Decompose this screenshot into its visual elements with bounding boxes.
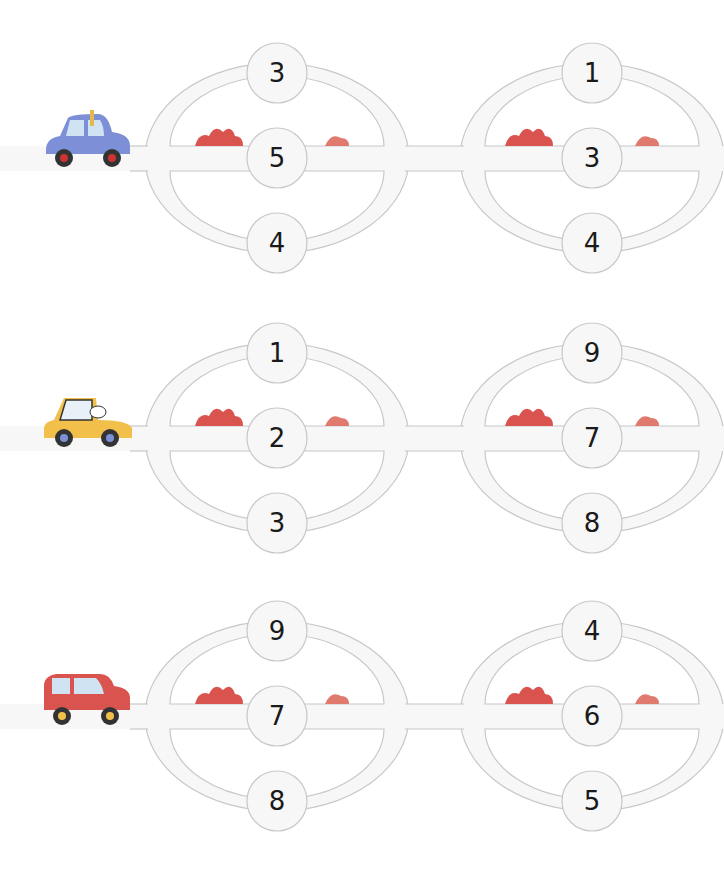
loop2-middle-number[interactable]: 3	[564, 138, 620, 178]
giraffe-car-icon	[42, 110, 134, 170]
loop1-bottom-number[interactable]: 4	[249, 223, 305, 263]
loop1-top-number[interactable]: 3	[249, 53, 305, 93]
loop1-top-number[interactable]: 9	[249, 611, 305, 651]
puzzle-row-3: 9 7 8 4 6 5	[0, 576, 724, 846]
loop1-top-number[interactable]: 1	[249, 333, 305, 373]
loop1-middle-number[interactable]: 2	[249, 418, 305, 458]
loop1-bottom-number[interactable]: 8	[249, 781, 305, 821]
dog-car-icon	[42, 392, 134, 452]
loop2-top-number[interactable]: 9	[564, 333, 620, 373]
loop2-bottom-number[interactable]: 5	[564, 781, 620, 821]
loop1-bottom-number[interactable]: 3	[249, 503, 305, 543]
loop2-bottom-number[interactable]: 8	[564, 503, 620, 543]
loop2-middle-number[interactable]: 6	[564, 696, 620, 736]
loop2-bottom-number[interactable]: 4	[564, 223, 620, 263]
loop2-top-number[interactable]: 1	[564, 53, 620, 93]
puzzle-row-2: 1 2 3 9 7 8	[0, 298, 724, 568]
puzzle-row-1: 3 5 4 1 3 4	[0, 18, 724, 288]
loop2-middle-number[interactable]: 7	[564, 418, 620, 458]
monkey-car-icon	[42, 668, 134, 728]
loop2-top-number[interactable]: 4	[564, 611, 620, 651]
loop1-middle-number[interactable]: 7	[249, 696, 305, 736]
loop1-middle-number[interactable]: 5	[249, 138, 305, 178]
